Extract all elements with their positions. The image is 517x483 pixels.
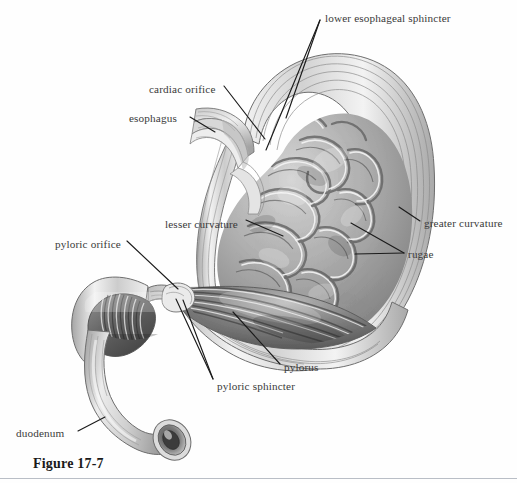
label-rugae: rugae — [408, 249, 434, 260]
label-pylorus: pylorus — [284, 362, 319, 373]
footer-divider — [0, 478, 517, 479]
pyloric-sphincter — [162, 283, 195, 312]
label-lesser-curvature: lesser curvature — [165, 219, 238, 230]
figure-caption: Figure 17-7 — [33, 456, 104, 472]
leader-duodenum — [78, 417, 105, 431]
label-cardiac-orifice: cardiac orifice — [149, 84, 216, 95]
label-greater-curvature: greater curvature — [424, 218, 503, 229]
figure-container: lower esophageal sphincter cardiac orifi… — [0, 0, 517, 483]
label-esophagus: esophagus — [129, 113, 177, 124]
label-lower-esophageal-sphincter: lower esophageal sphincter — [325, 13, 451, 24]
label-pyloric-sphincter: pyloric sphincter — [217, 381, 295, 392]
duodenum-lumen — [146, 413, 199, 468]
label-pyloric-orifice: pyloric orifice — [55, 239, 121, 250]
label-duodenum: duodenum — [16, 428, 64, 439]
